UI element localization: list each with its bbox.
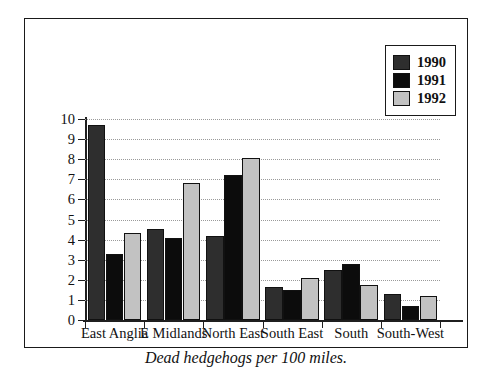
legend-swatch-1991: [393, 73, 410, 88]
y-axis-tick: [78, 220, 85, 221]
bar: [301, 278, 319, 320]
x-axis-tick-label: South East: [261, 326, 323, 341]
y-axis-tick: [78, 260, 85, 261]
y-axis-tick-label: 2: [68, 273, 75, 288]
x-axis-tick: [85, 320, 86, 328]
y-axis-tick-label: 6: [68, 192, 75, 207]
y-axis-tick: [78, 139, 85, 140]
bar: [360, 285, 378, 320]
legend-swatch-1990: [393, 55, 410, 70]
legend-swatch-1992: [393, 91, 410, 106]
bar: [242, 158, 260, 320]
x-axis-tick-label: East Anglia: [81, 326, 148, 341]
legend-item: 1990: [393, 55, 446, 70]
bar: [402, 306, 420, 320]
legend-label-1992: 1992: [417, 91, 446, 106]
legend-label-1991: 1991: [417, 73, 446, 88]
chart-caption: Dead hedgehogs per 100 miles.: [25, 349, 467, 367]
bar: [224, 175, 242, 320]
plot-area: 109876543210East AngliaE MidlandsNorth E…: [85, 119, 440, 320]
y-axis-tick: [78, 199, 85, 200]
bar: [183, 183, 201, 320]
bar: [324, 270, 342, 320]
bar: [147, 229, 165, 320]
x-axis-line: [83, 320, 463, 322]
x-axis-tick-label: South: [334, 326, 368, 341]
y-axis-tick: [78, 320, 85, 321]
y-axis-tick-label: 5: [68, 212, 75, 227]
y-axis-tick-label: 8: [68, 152, 75, 167]
bar: [88, 125, 106, 320]
bar-group: [381, 119, 440, 320]
bar: [283, 290, 301, 320]
bar: [420, 296, 438, 320]
x-axis-tick-label: North East: [202, 326, 264, 341]
legend-label-1990: 1990: [417, 55, 446, 70]
chart-frame: 109876543210East AngliaE MidlandsNorth E…: [24, 18, 468, 348]
bar: [106, 254, 124, 320]
y-axis-tick-label: 0: [68, 313, 75, 328]
bar: [124, 233, 142, 320]
chart-legend: 1990 1991 1992: [385, 45, 456, 116]
legend-item: 1991: [393, 73, 446, 88]
x-axis-tick-label: E Midlands: [140, 326, 207, 341]
bar: [265, 287, 283, 320]
bar-group: [144, 119, 203, 320]
y-axis-tick-label: 4: [68, 232, 75, 247]
bar: [206, 236, 224, 320]
bar-group: [85, 119, 144, 320]
y-axis-tick-label: 3: [68, 252, 75, 267]
y-axis-tick: [78, 300, 85, 301]
bar-group: [263, 119, 322, 320]
bar: [384, 294, 402, 320]
y-axis-tick: [78, 179, 85, 180]
bar-group: [322, 119, 381, 320]
y-axis-tick: [78, 119, 85, 120]
y-axis-tick: [78, 159, 85, 160]
bar: [342, 264, 360, 320]
x-axis-tick-label: South-West: [377, 326, 444, 341]
y-axis-tick: [78, 280, 85, 281]
bar-group: [203, 119, 262, 320]
y-axis-tick: [78, 240, 85, 241]
legend-item: 1992: [393, 91, 446, 106]
y-axis-tick-label: 9: [68, 132, 75, 147]
bar: [165, 238, 183, 320]
y-axis-tick-label: 1: [68, 293, 75, 308]
y-axis-tick-label: 7: [68, 172, 75, 187]
y-axis-tick-label: 10: [61, 112, 76, 127]
